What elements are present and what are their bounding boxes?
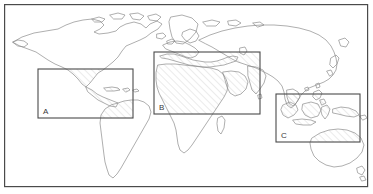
world-map-figure: A B C (0, 0, 373, 194)
region-label-c: C (281, 131, 287, 140)
region-label-b: B (159, 103, 164, 112)
region-label-a: A (43, 107, 49, 116)
world-map-canvas: A B C (0, 0, 373, 194)
